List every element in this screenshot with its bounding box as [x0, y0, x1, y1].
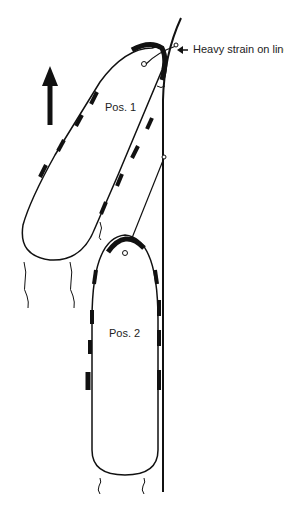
- strain-arrow-icon: [177, 46, 188, 54]
- label-pos-1: Pos. 1: [105, 101, 136, 113]
- arrow-up-icon: [42, 66, 58, 125]
- mooring-diagram: [0, 0, 284, 512]
- label-pos-2: Pos. 2: [109, 327, 140, 339]
- pier-line: [163, 18, 181, 492]
- annotation-heavy-strain: Heavy strain on line: [193, 43, 284, 55]
